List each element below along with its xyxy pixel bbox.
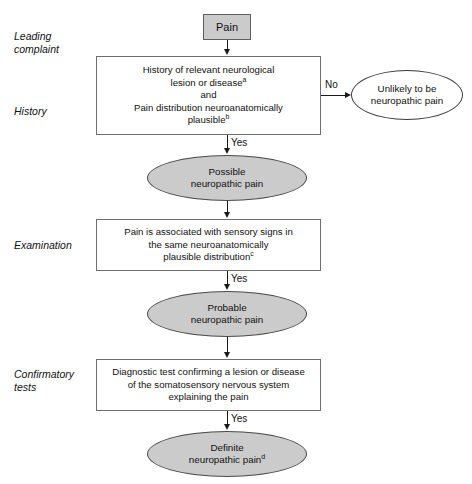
connector-examination-to-probable xyxy=(227,271,228,285)
node-pain-label: Pain xyxy=(210,21,244,34)
confirmatory-line-1: Diagnostic test confirming a lesion or d… xyxy=(112,366,305,377)
node-possible-neuropathic-pain-label: Possible neuropathic pain xyxy=(187,166,267,190)
node-definite-neuropathic-pain-label: Definiteneuropathic paind xyxy=(185,442,269,466)
history-line-2: lesion or disease xyxy=(171,77,243,88)
flowchart-canvas: Leading complaint History Examination Co… xyxy=(0,0,472,484)
node-examination-criteria-label: Pain is associated with sensory signs in… xyxy=(118,226,299,263)
node-confirmatory-criteria-label: Diagnostic test confirming a lesion or d… xyxy=(106,366,311,403)
history-line-3: and xyxy=(200,89,216,100)
arrowhead-possible-to-examination xyxy=(224,212,230,218)
stage-label-leading-complaint: Leading complaint xyxy=(14,30,59,55)
node-history-criteria-label: History of relevant neurologicallesion o… xyxy=(128,64,289,126)
node-possible-neuropathic-pain[interactable]: Possible neuropathic pain xyxy=(147,155,307,201)
connector-confirmatory-to-definite xyxy=(227,411,228,425)
edge-label-confirmatory-yes: Yes xyxy=(231,413,247,424)
node-history-criteria[interactable]: History of relevant neurologicallesion o… xyxy=(96,56,321,135)
edge-label-examination-yes: Yes xyxy=(231,273,247,284)
examination-sup-c: c xyxy=(250,250,253,257)
definite-sup-d: d xyxy=(261,453,265,460)
node-pain[interactable]: Pain xyxy=(203,14,251,40)
connector-probable-to-confirmatory xyxy=(227,337,228,353)
arrowhead-confirmatory-to-definite xyxy=(224,424,230,430)
node-probable-neuropathic-pain-label: Probable neuropathic pain xyxy=(187,302,267,326)
connector-history-to-possible xyxy=(227,135,228,149)
arrowhead-history-to-possible xyxy=(224,148,230,154)
arrowhead-probable-to-confirmatory xyxy=(224,352,230,358)
examination-line-2: the same neuroanatomically xyxy=(148,239,268,250)
node-examination-criteria[interactable]: Pain is associated with sensory signs in… xyxy=(96,219,321,271)
history-line-1: History of relevant neurological xyxy=(143,64,275,75)
definite-line-1: Definite xyxy=(210,442,243,453)
history-line-4: Pain distribution neuroanatomically xyxy=(134,102,283,113)
stage-label-history: History xyxy=(14,105,47,118)
examination-line-3: plausible distribution xyxy=(163,251,250,262)
stage-label-confirmatory-tests: Confirmatory tests xyxy=(14,368,74,393)
history-sup-a: a xyxy=(243,76,247,83)
node-probable-neuropathic-pain[interactable]: Probable neuropathic pain xyxy=(147,291,307,337)
history-sup-b: b xyxy=(226,113,230,120)
arrowhead-examination-to-probable xyxy=(224,284,230,290)
definite-line-2: neuropathic pain xyxy=(189,454,261,465)
confirmatory-line-3: explaining the pain xyxy=(168,391,248,402)
examination-line-1: Pain is associated with sensory signs in xyxy=(124,226,293,237)
edge-label-history-yes: Yes xyxy=(231,137,247,148)
node-unlikely-neuropathic-pain[interactable]: Unlikely to be neuropathic pain xyxy=(351,70,463,120)
node-definite-neuropathic-pain[interactable]: Definiteneuropathic paind xyxy=(147,431,307,477)
stage-label-examination: Examination xyxy=(14,239,72,252)
confirmatory-line-2: of the somatosensory nervous system xyxy=(128,379,290,390)
arrowhead-pain-to-history xyxy=(224,49,230,55)
history-line-5: plausible xyxy=(188,114,226,125)
node-confirmatory-criteria[interactable]: Diagnostic test confirming a lesion or d… xyxy=(96,359,321,411)
edge-label-history-no: No xyxy=(325,79,338,90)
node-unlikely-neuropathic-pain-label: Unlikely to be neuropathic pain xyxy=(367,83,447,107)
